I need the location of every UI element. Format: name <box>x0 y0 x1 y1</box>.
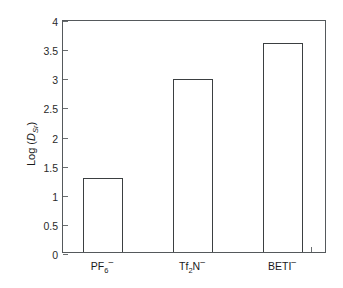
y-axis-tick-label: 0 <box>52 250 58 261</box>
y-axis-tick: 1 <box>63 196 68 197</box>
y-axis-title: Log (DSr) <box>25 122 40 166</box>
y-axis-tick: 2.5 <box>63 108 68 109</box>
bar <box>173 79 213 252</box>
bar <box>83 178 123 252</box>
y-axis-tick-label: 2.5 <box>43 104 58 115</box>
x-axis-tick-label: BETI– <box>268 258 296 271</box>
y-axis-tick: 1.5 <box>63 167 68 168</box>
x-axis-tick-label: Tf2N– <box>179 258 205 274</box>
y-axis-tick-label: 3 <box>52 75 58 86</box>
x-axis-tick-label: PF6– <box>91 258 113 274</box>
y-axis-tick-label: 1 <box>52 192 58 203</box>
y-axis-tick-label: 3.5 <box>43 46 58 57</box>
y-axis-tick: 4 <box>63 21 68 22</box>
y-axis-tick: 0.5 <box>63 225 68 226</box>
y-axis-tick: 3 <box>63 79 68 80</box>
y-axis-tick: 3.5 <box>63 50 68 51</box>
y-axis-title-suffix: ) <box>25 122 37 126</box>
y-axis-title-prefix: Log ( <box>25 141 37 166</box>
y-axis-tick-label: 0.5 <box>43 221 58 232</box>
bar-chart-figure: Log (DSr) 00.511.522.533.54 PF6–Tf2N–BET… <box>0 0 343 288</box>
y-axis-tick-label: 4 <box>52 17 58 28</box>
y-axis-tick-label: 2 <box>52 133 58 144</box>
bar <box>263 43 303 252</box>
y-axis-tick-label: 1.5 <box>43 162 58 173</box>
y-axis-title-subscript: Sr <box>31 126 40 134</box>
y-axis-tick: 2 <box>63 138 68 139</box>
plot-area: 00.511.522.533.54 <box>62 20 326 253</box>
y-axis-tick: 0 <box>63 254 68 255</box>
y-axis-title-variable: D <box>25 133 37 141</box>
x-axis-tick <box>311 247 312 252</box>
